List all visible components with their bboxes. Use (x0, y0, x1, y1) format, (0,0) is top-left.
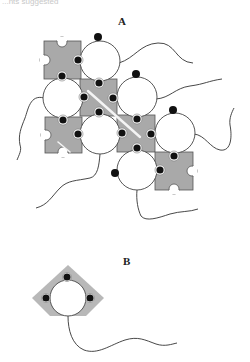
circle-bottom (117, 150, 157, 190)
tail-top-right-1 (119, 43, 193, 63)
tail-top-right-2 (156, 79, 222, 99)
dot-b-right (86, 294, 93, 301)
circle-right (155, 113, 195, 153)
panel-a-assembly (17, 33, 234, 219)
circle-upper-right (117, 77, 157, 117)
dot-b-top (63, 273, 70, 280)
dot-b-left (42, 294, 49, 301)
diagram-figure: .sq { fill: #a9a9a9; stroke: #555; strok… (0, 0, 250, 362)
circle-top (80, 41, 120, 81)
circle-b (50, 280, 86, 316)
panel-b-unit (32, 265, 177, 351)
tail-b (68, 316, 177, 351)
circle-left (43, 78, 83, 118)
tail-bottom-right (137, 190, 198, 219)
circle-center (80, 114, 120, 154)
tail-bottom-left (36, 154, 100, 208)
tail-left (17, 97, 44, 160)
tail-right (194, 108, 234, 150)
